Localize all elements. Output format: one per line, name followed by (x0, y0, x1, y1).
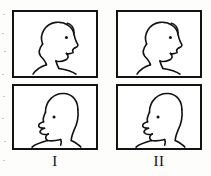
roman-numeral-two: II (154, 154, 165, 169)
panel-column-two: II (116, 10, 202, 169)
panel-two-top[interactable] (116, 10, 202, 78)
head-profile-elongated-drawing (14, 86, 96, 148)
column-one-label: I (12, 154, 98, 169)
eye-dot (65, 36, 68, 39)
figure-root: I (0, 0, 211, 176)
head-profile-elongated-drawing (118, 86, 200, 148)
column-two-label: II (116, 154, 202, 169)
eye-dot (157, 115, 160, 118)
scan-margin-artifacts (0, 0, 12, 176)
roman-numeral-one: I (52, 154, 58, 169)
head-profile-relaxed-drawing (118, 12, 200, 76)
eye-dot (53, 115, 56, 118)
panel-column-one: I (12, 10, 98, 169)
panel-two-bottom[interactable] (116, 84, 202, 150)
panel-one-top[interactable] (12, 10, 98, 78)
panel-one-bottom[interactable] (12, 84, 98, 150)
head-profile-relaxed-drawing (14, 12, 96, 76)
eye-dot (169, 36, 172, 39)
